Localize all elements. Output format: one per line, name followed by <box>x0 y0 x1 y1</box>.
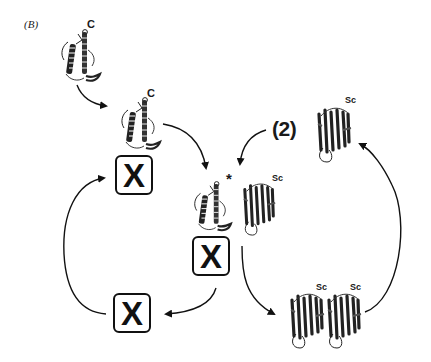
panel-label: (B) <box>24 18 38 30</box>
factor-x-box-center: X <box>192 236 230 276</box>
native-protein-glyph <box>62 30 100 81</box>
dimer-sheet-left-glyph <box>291 294 324 348</box>
factor-x-box-bottom: X <box>113 293 151 333</box>
sc-label-dimer-left: Sc <box>316 282 327 292</box>
arrow-step2-to-center <box>240 130 266 164</box>
arrow-center-to-xbottom <box>166 288 216 314</box>
activated-protein-glyph <box>195 182 231 231</box>
dimer-sheet-right-glyph <box>328 294 361 348</box>
step2-sc-sheet-glyph <box>318 108 351 162</box>
diagram-canvas <box>0 0 431 362</box>
c-terminus-label-intermediate: C <box>147 87 155 99</box>
arrow-native-to-intermediate <box>77 85 106 106</box>
sc-label-dimer-right: Sc <box>350 282 361 292</box>
step-2-label: (2) <box>272 117 296 141</box>
arrow-xbottom-to-xtop <box>64 178 106 314</box>
c-terminus-label-native: C <box>87 18 95 30</box>
activated-asterisk: * <box>226 170 232 187</box>
arrow-dimer-to-step2 <box>360 144 401 312</box>
factor-x-box-top: X <box>115 155 153 195</box>
arrow-intermediate-to-center <box>163 124 206 168</box>
intermediate-protein-glyph <box>122 98 160 149</box>
sc-label-center: Sc <box>272 173 283 183</box>
arrow-center-to-dimer <box>242 246 274 314</box>
center-sc-sheet-glyph <box>244 184 275 235</box>
sc-label-step2: Sc <box>345 95 356 105</box>
